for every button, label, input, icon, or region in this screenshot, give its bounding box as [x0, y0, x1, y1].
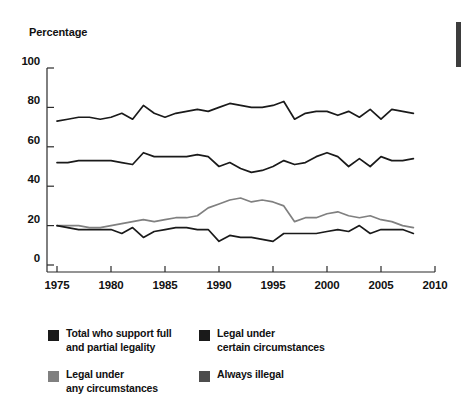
plot-area [0, 0, 469, 300]
y-tick-label: 80 [14, 94, 40, 106]
x-tick-label: 1985 [145, 279, 185, 291]
x-tick-label: 1975 [37, 279, 77, 291]
legend-item-label: Legal under certain circumstances [217, 327, 325, 354]
x-tick-label: 1980 [91, 279, 131, 291]
legend-item: Legal under any circumstances [48, 368, 183, 395]
series-line-4 [57, 226, 413, 242]
legend-swatch-illegal [199, 371, 210, 382]
legend-swatch-any [48, 371, 59, 382]
x-tick-label: 2000 [307, 279, 347, 291]
y-tick-label: 20 [14, 213, 40, 225]
y-tick-label: 60 [14, 134, 40, 146]
legend-item: Always illegal [199, 368, 389, 395]
x-tick-label: 2005 [361, 279, 401, 291]
legend-item: Total who support full and partial legal… [48, 327, 183, 354]
y-tick-label: 100 [14, 55, 40, 67]
series-line-1 [57, 101, 413, 121]
x-tick-label: 1995 [253, 279, 293, 291]
chart-legend: Total who support full and partial legal… [48, 327, 448, 395]
legend-item-label: Legal under any circumstances [66, 368, 158, 395]
series-line-3 [57, 198, 413, 228]
legend-swatch-certain [199, 330, 210, 341]
x-tick-label: 2010 [415, 279, 455, 291]
x-tick-label: 1990 [199, 279, 239, 291]
y-tick-label: 40 [14, 173, 40, 185]
legend-item: Legal under certain circumstances [199, 327, 389, 354]
legend-swatch-total [48, 330, 59, 341]
series-line-2 [57, 153, 413, 173]
y-tick-label: 0 [14, 252, 40, 264]
legend-item-label: Total who support full and partial legal… [66, 327, 172, 354]
legend-item-label: Always illegal [217, 368, 284, 382]
